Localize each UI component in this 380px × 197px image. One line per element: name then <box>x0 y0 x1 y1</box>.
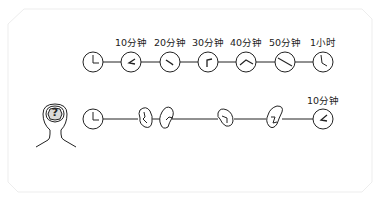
time-label-30min: 30分钟 <box>192 38 224 48</box>
time-label-20min: 20分钟 <box>154 38 186 48</box>
distorted-clock-icon <box>139 108 152 128</box>
clock-icon <box>160 52 180 72</box>
clock-icon <box>198 52 218 72</box>
time-label-50min: 50分钟 <box>269 38 301 48</box>
question-mark-icon: ? <box>52 107 58 118</box>
clock-icon <box>83 109 103 129</box>
clock-icon <box>313 52 333 72</box>
clock-icon <box>83 52 103 72</box>
clock-icon <box>313 109 333 129</box>
clock-icon <box>275 52 295 72</box>
time-label-40min: 40分钟 <box>230 38 262 48</box>
time-label-10min: 10分钟 <box>115 38 147 48</box>
clock-icon <box>121 52 141 72</box>
time-label-1hour: 1小时 <box>310 38 336 48</box>
diagram-card: 10分钟 20分钟 30分钟 40分钟 50分钟 1小时 10分钟 ? <box>0 0 380 197</box>
clock-icon <box>236 52 256 72</box>
time-label-end: 10分钟 <box>307 96 339 106</box>
